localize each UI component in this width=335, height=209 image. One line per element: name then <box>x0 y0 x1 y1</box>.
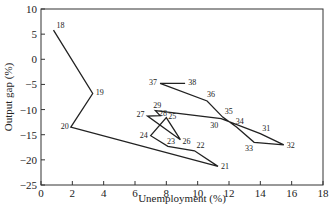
point-label: 30 <box>210 121 218 130</box>
x-tick-label: 4 <box>101 187 107 199</box>
point-label: 20 <box>61 122 69 131</box>
y-tick-label: 5 <box>32 28 38 40</box>
y-tick-label: −10 <box>20 104 38 116</box>
y-axis-label: Output gap (%) <box>2 62 15 131</box>
y-tick-label: 10 <box>26 3 38 15</box>
point-label: 26 <box>182 137 190 146</box>
x-tick-label: 18 <box>318 187 330 199</box>
point-label: 23 <box>167 137 175 146</box>
y-tick-label: −5 <box>25 78 37 90</box>
x-tick-label: 14 <box>255 187 267 199</box>
plot-area <box>41 9 323 185</box>
y-tick-label: −25 <box>20 179 38 191</box>
point-label: 28 <box>159 109 167 118</box>
chart: 0246810121416181050−5−10−15−20−25 181920… <box>0 0 335 209</box>
point-label: 29 <box>153 101 161 110</box>
point-label: 22 <box>197 141 205 150</box>
point-label: 25 <box>168 112 176 121</box>
x-tick-label: 2 <box>70 187 76 199</box>
point-label: 31 <box>262 124 270 133</box>
point-label: 19 <box>96 88 104 97</box>
y-tick-label: −15 <box>20 129 38 141</box>
point-label: 38 <box>188 78 196 87</box>
plot-border <box>41 9 323 185</box>
point-label: 18 <box>57 21 65 30</box>
point-label: 21 <box>221 162 229 171</box>
axis-ticks: 0246810121416181050−5−10−15−20−25 <box>20 3 329 199</box>
y-tick-label: −20 <box>20 154 38 166</box>
point-labels: 1819202122232425262728293031323334353637… <box>57 21 295 171</box>
point-label: 24 <box>140 131 148 140</box>
point-label: 36 <box>207 90 215 99</box>
point-label: 37 <box>149 78 157 87</box>
point-label: 35 <box>225 107 233 116</box>
x-tick-label: 16 <box>286 187 298 199</box>
point-label: 32 <box>287 141 295 150</box>
x-tick-label: 0 <box>38 187 44 199</box>
point-label: 34 <box>236 117 244 126</box>
point-label: 27 <box>137 110 145 119</box>
point-label: 33 <box>245 144 253 153</box>
y-tick-label: 0 <box>32 53 38 65</box>
x-axis-label: Unemployment (%) <box>138 192 226 205</box>
